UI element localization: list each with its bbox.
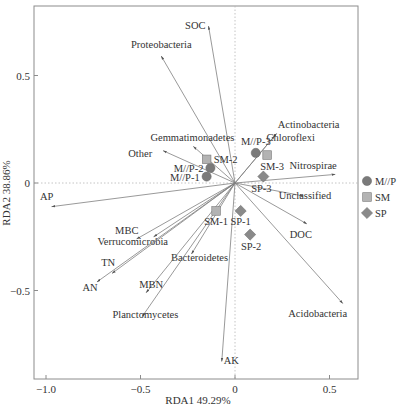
- arrow-label: AK: [224, 355, 240, 366]
- sample-sp-1: SP-1: [230, 205, 250, 227]
- sample-label: SP-3: [251, 183, 271, 194]
- arrow-line: [235, 174, 335, 183]
- diamond-marker: [235, 205, 246, 216]
- arrow-line: [222, 183, 235, 361]
- y-tick-label: 0.5: [16, 70, 30, 82]
- sample-sm-2: SM-2: [202, 154, 237, 165]
- arrow-line: [154, 183, 235, 237]
- legend: M//PSMSP: [361, 176, 396, 219]
- arrow-label: MBC: [115, 225, 138, 236]
- legend-item-mpp: M//P: [362, 176, 396, 187]
- arrow-unclassified: Unclassified: [235, 183, 332, 201]
- sample-sp-3: SP-3: [251, 171, 271, 194]
- legend-label: M//P: [375, 176, 396, 187]
- arrow-label: SOC: [185, 20, 205, 31]
- arrow-label: MBN: [139, 279, 163, 290]
- sample-sm-1: SM-1: [204, 207, 228, 227]
- rda-biplot: −1.0−0.500.50.50−0.5 SOCProteobacteriaGe…: [0, 0, 406, 409]
- legend-label: SM: [375, 192, 391, 203]
- x-tick-label: −0.5: [131, 383, 151, 395]
- arrow-label: Actinobacteria: [278, 119, 340, 130]
- arrow-nitrospirae: Nitrospirae: [235, 160, 337, 183]
- square-marker: [363, 193, 372, 202]
- sample-label: SM-2: [214, 154, 238, 165]
- sample-points: M//P-1M//P-2M//P-3SM-1SM-2SM-3SP-1SP-2SP…: [170, 136, 284, 252]
- arrow-label: Planctomycetes: [112, 309, 178, 320]
- arrow-layer: SOCProteobacteriaGemmatimonadetesOtherAc…: [40, 20, 348, 366]
- sample-label: SP-1: [230, 216, 250, 227]
- sample-mpp-2: M//P-2: [174, 163, 215, 174]
- arrow-label: AN: [82, 282, 98, 293]
- circle-marker: [251, 148, 260, 157]
- sample-label: M//P-3: [241, 136, 271, 147]
- x-axis-label: RDA1 49.29%: [165, 394, 230, 406]
- legend-item-sm: SM: [363, 192, 391, 203]
- y-axis-label: RDA2 38.86%: [0, 160, 12, 225]
- diamond-marker: [361, 207, 372, 218]
- x-tick-label: −1.0: [36, 383, 56, 395]
- legend-label: SP: [375, 208, 387, 219]
- x-tick-label: 0: [232, 383, 238, 395]
- arrow-label: Bacteroidetes: [171, 252, 228, 263]
- x-tick-label: 0.5: [323, 383, 337, 395]
- arrow-label: Verrucomicrobia: [97, 236, 168, 247]
- sample-label: SM-1: [204, 216, 228, 227]
- arrow-label: Unclassified: [279, 190, 332, 201]
- arrow-label: Gemmatimonadetes: [150, 132, 234, 143]
- arrow-label: Nitrospirae: [290, 160, 338, 171]
- square-marker: [212, 207, 221, 216]
- arrow-label: TN: [101, 257, 115, 268]
- square-marker: [263, 151, 272, 160]
- sample-label: M//P-2: [174, 163, 204, 174]
- arrow-ap: AP: [40, 183, 235, 207]
- arrow-line: [142, 183, 235, 316]
- sample-sm-3: SM-3: [260, 151, 284, 172]
- arrow-label: DOC: [290, 229, 312, 240]
- diamond-marker: [245, 229, 256, 240]
- arrow-label: Other: [128, 148, 152, 159]
- arrow-label: AP: [40, 191, 54, 202]
- arrow-label: Proteobacteria: [131, 39, 192, 50]
- circle-marker: [362, 176, 371, 185]
- sample-label: SP-2: [241, 241, 261, 252]
- square-marker: [202, 155, 211, 164]
- y-tick-label: 0: [25, 177, 31, 189]
- legend-item-sp: SP: [361, 207, 386, 219]
- arrow-label: Chloroflexi: [266, 132, 314, 143]
- sample-label: SM-3: [260, 161, 284, 172]
- y-tick-label: −0.5: [10, 285, 30, 297]
- sample-sp-2: SP-2: [241, 229, 261, 252]
- arrow-actinobacteria: Actinobacteria: [235, 119, 340, 183]
- arrow-label: Acidobacteria: [288, 308, 347, 319]
